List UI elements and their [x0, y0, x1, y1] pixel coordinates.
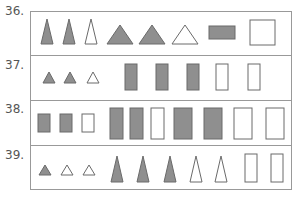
row38-shape-6-large-rectangle-empty-icon: [151, 108, 164, 139]
row39-shape-4-tall-triangle-filled-icon: [111, 156, 123, 182]
row36-shape-5-wide-triangle-filled-icon: [139, 25, 165, 44]
row37-shape-6-tall-rectangle-filled-icon: [187, 64, 199, 90]
row39-shape-10-tall-rectangle-empty-icon: [271, 154, 283, 182]
row39-shape-1-small-triangle-filled-icon: [39, 165, 51, 175]
row39-shape-7-tall-triangle-empty-icon: [190, 156, 202, 182]
row38-shape-7-large-rectangle-filled-icon: [174, 108, 192, 139]
row36-shape-1-tall-triangle-filled-icon: [41, 19, 53, 44]
row38-shape-1-small-rectangle-filled-icon: [38, 114, 50, 132]
shapes-layer: [0, 0, 299, 197]
row37-shape-4-tall-rectangle-filled-icon: [125, 64, 137, 90]
row39-shape-9-tall-rectangle-empty-icon: [245, 154, 257, 182]
row37-shape-8-tall-rectangle-empty-icon: [248, 64, 260, 90]
row38-shape-4-large-rectangle-filled-icon: [110, 108, 123, 139]
row36-shape-6-wide-triangle-empty-icon: [172, 25, 198, 44]
row37-shape-5-tall-rectangle-filled-icon: [156, 64, 168, 90]
row37-shape-7-tall-rectangle-empty-icon: [216, 64, 228, 90]
row37-shape-1-small-triangle-filled-icon: [43, 72, 55, 83]
row36-shape-3-tall-triangle-empty-icon: [85, 19, 97, 44]
row39-shape-3-small-triangle-empty-icon: [83, 165, 95, 175]
row38-shape-9-large-rectangle-empty-icon: [234, 108, 252, 139]
row38-shape-8-large-rectangle-filled-icon: [204, 108, 222, 139]
row36-shape-2-tall-triangle-filled-icon: [63, 19, 75, 44]
row38-shape-2-small-rectangle-filled-icon: [60, 114, 72, 132]
row37-shape-3-small-triangle-empty-icon: [87, 72, 99, 83]
row39-shape-2-small-triangle-empty-icon: [61, 165, 73, 175]
row38-shape-5-large-rectangle-filled-icon: [130, 108, 143, 139]
row39-shape-6-tall-triangle-filled-icon: [164, 156, 176, 182]
row39-shape-5-tall-triangle-filled-icon: [137, 156, 149, 182]
row38-shape-3-small-rectangle-empty-icon: [82, 114, 94, 132]
row36-shape-8-square-empty-icon: [250, 20, 275, 45]
row37-shape-2-small-triangle-filled-icon: [64, 72, 76, 83]
row36-shape-7-wide-rectangle-filled-icon: [209, 26, 235, 39]
row36-shape-4-wide-triangle-filled-icon: [107, 25, 133, 44]
row38-shape-10-large-rectangle-empty-icon: [266, 108, 284, 139]
row39-shape-8-tall-triangle-empty-icon: [215, 156, 227, 182]
